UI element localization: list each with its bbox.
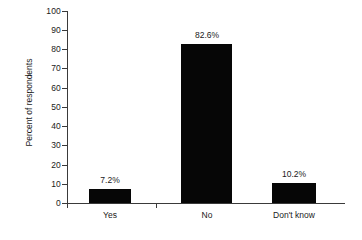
bar-value-no: 82.6% — [177, 31, 237, 40]
y-tick-label-30: 30 — [37, 141, 61, 150]
bar-chart: Percent of respondents 100 90 80 70 60 5… — [0, 0, 362, 240]
y-tick-mark-10 — [62, 184, 67, 185]
y-tick-label-70: 70 — [37, 64, 61, 73]
y-tick-label-80: 80 — [37, 45, 61, 54]
x-axis-line — [67, 203, 345, 204]
x-category-label-no: No — [177, 210, 237, 220]
x-category-label-dont-know: Don't know — [259, 210, 329, 220]
y-tick-label-90: 90 — [37, 26, 61, 35]
bar-yes — [89, 189, 131, 203]
y-tick-mark-90 — [62, 30, 67, 31]
bar-value-yes: 7.2% — [80, 176, 140, 185]
bar-dont-know — [272, 183, 316, 203]
bar-no — [181, 44, 232, 203]
y-tick-mark-30 — [62, 145, 67, 146]
y-tick-label-40: 40 — [37, 122, 61, 131]
y-tick-mark-70 — [62, 68, 67, 69]
y-tick-label-0: 0 — [37, 199, 61, 208]
y-tick-mark-60 — [62, 88, 67, 89]
y-tick-mark-40 — [62, 126, 67, 127]
y-tick-mark-100 — [62, 11, 67, 12]
y-tick-label-50: 50 — [37, 103, 61, 112]
x-tick-mark-origin — [67, 203, 68, 208]
x-category-label-yes: Yes — [80, 210, 140, 220]
y-tick-label-20: 20 — [37, 161, 61, 170]
y-tick-label-60: 60 — [37, 84, 61, 93]
y-tick-label-100: 100 — [37, 7, 61, 16]
y-tick-mark-20 — [62, 165, 67, 166]
y-axis-title: Percent of respondents — [25, 33, 34, 173]
y-tick-label-10: 10 — [37, 180, 61, 189]
y-tick-mark-50 — [62, 107, 67, 108]
x-tick-mark-1 — [156, 203, 157, 208]
bar-value-dont-know: 10.2% — [264, 170, 324, 179]
y-tick-mark-80 — [62, 49, 67, 50]
y-axis-line — [67, 11, 68, 203]
